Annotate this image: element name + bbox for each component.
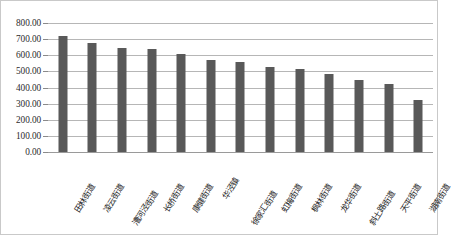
x-tick-label: 长桥街道	[159, 181, 186, 214]
bars-group	[48, 23, 433, 152]
x-tick-label: 徐家汇街道	[247, 188, 278, 227]
bar-slot	[255, 23, 285, 152]
x-tick-label: 湖南街道	[425, 181, 452, 214]
bar[interactable]	[295, 69, 304, 152]
bar-slot	[315, 23, 345, 152]
x-tick-label: 华泾镇	[218, 175, 241, 201]
x-tick-label: 田林街道	[70, 181, 97, 214]
y-tick-label: 100.00	[16, 131, 41, 141]
bar-slot	[78, 23, 108, 152]
bar[interactable]	[354, 80, 363, 152]
bar[interactable]	[58, 36, 67, 152]
bar-slot	[137, 23, 167, 152]
bar-slot	[48, 23, 78, 152]
x-tick-label: 斜土路街道	[366, 188, 397, 227]
bar[interactable]	[384, 84, 393, 152]
x-tick-label: 龙华街道	[336, 181, 363, 214]
bar-slot	[226, 23, 256, 152]
x-tick-label: 枫林街道	[307, 181, 334, 214]
bar[interactable]	[206, 60, 215, 152]
bar[interactable]	[118, 48, 127, 152]
bar[interactable]	[177, 54, 186, 152]
y-tick-label: 400.00	[16, 83, 41, 93]
bar[interactable]	[88, 43, 97, 152]
bar-slot	[166, 23, 196, 152]
bar-slot	[107, 23, 137, 152]
bar[interactable]	[325, 74, 334, 152]
bar[interactable]	[414, 100, 423, 152]
y-tick-label: 500.00	[16, 66, 41, 76]
x-tick-label: 天平街道	[396, 181, 423, 214]
x-tick-label: 凌云街道	[100, 181, 127, 214]
x-tick-label: 漕河泾街道	[129, 188, 160, 227]
bar-slot	[344, 23, 374, 152]
y-tick-label: 200.00	[16, 115, 41, 125]
y-tick-label: 700.00	[16, 34, 41, 44]
x-tick-label: 虹梅街道	[277, 181, 304, 214]
bar-slot	[285, 23, 315, 152]
bar[interactable]	[236, 62, 245, 152]
y-tick-label: 300.00	[16, 99, 41, 109]
y-tick-label: 600.00	[16, 50, 41, 60]
y-tick-label: 800.00	[16, 18, 41, 28]
x-tick-label: 康健街道	[188, 181, 215, 214]
plot-area: 800.00700.00600.00500.00400.00300.00200.…	[48, 23, 433, 152]
bar-slot	[374, 23, 404, 152]
bar-slot	[196, 23, 226, 152]
bar-slot	[403, 23, 433, 152]
y-tick-label: 0.00	[25, 147, 41, 157]
bar[interactable]	[266, 67, 275, 152]
bar[interactable]	[147, 49, 156, 152]
x-axis-labels: 田林街道凌云街道漕河泾街道长桥街道康健街道华泾镇徐家汇街道虹梅街道枫林街道龙华街…	[48, 153, 433, 235]
